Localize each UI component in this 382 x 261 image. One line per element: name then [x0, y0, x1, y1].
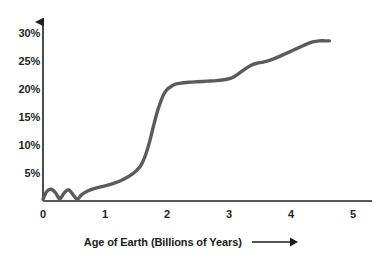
x-tick-label-5: 5: [341, 209, 365, 220]
x-tick-label-2: 2: [155, 209, 179, 220]
arrow-right-icon: [252, 237, 298, 247]
x-tick-label-1: 1: [93, 209, 117, 220]
x-tick-label-4: 4: [279, 209, 303, 220]
x-tick-label-0: 0: [31, 209, 55, 220]
x-axis-title-text: Age of Earth (Billions of Years): [84, 236, 242, 248]
x-axis-title: Age of Earth (Billions of Years): [0, 232, 382, 250]
x-tick-label-3: 3: [217, 209, 241, 220]
x-axis-tick-labels: 0 1 2 3 4 5: [0, 0, 382, 261]
chart-container: 30% 25% 20% 15% 10% 5% 0 1 2 3 4 5 Age o…: [0, 0, 382, 261]
